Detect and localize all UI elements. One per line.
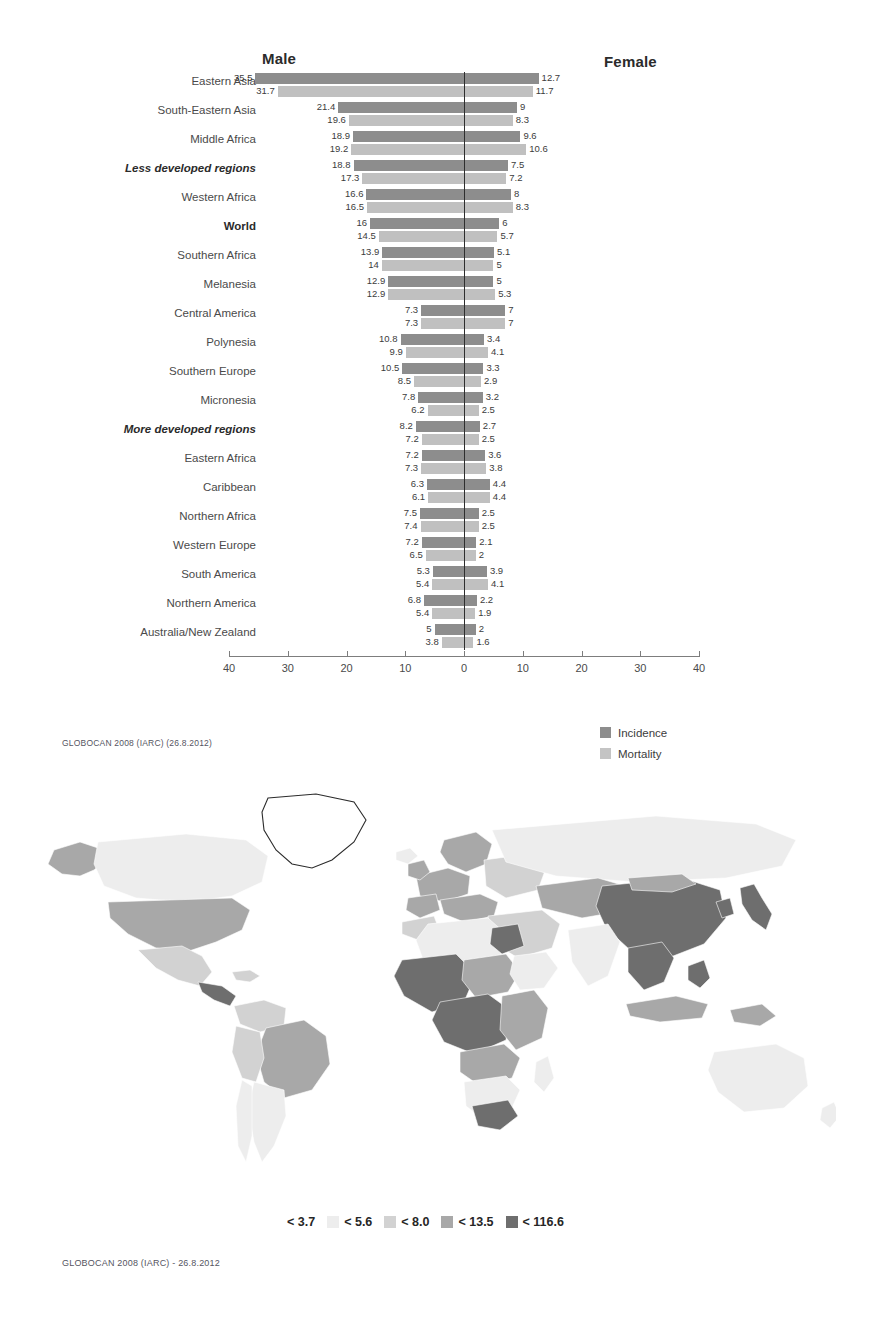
male-incidence-value: 7.5 bbox=[376, 507, 417, 519]
chart-row-group: World16614.55.7 bbox=[0, 217, 870, 246]
female-mortality-value: 2.5 bbox=[482, 404, 523, 416]
mortality-bar-track: 6.22.5 bbox=[0, 405, 870, 417]
chart-row-group: Australia/New Zealand523.81.6 bbox=[0, 623, 870, 652]
map-region-japan bbox=[740, 884, 772, 930]
male-axis-header: Male bbox=[262, 50, 296, 67]
map-region-central-america bbox=[198, 982, 236, 1006]
male-incidence-bar bbox=[422, 450, 464, 461]
mortality-bar-track: 17.37.2 bbox=[0, 173, 870, 185]
male-mortality-bar bbox=[379, 231, 464, 242]
male-mortality-value: 6.2 bbox=[384, 404, 425, 416]
map-region-argentina bbox=[248, 1082, 286, 1162]
mortality-bar-track: 8.52.9 bbox=[0, 376, 870, 388]
female-mortality-bar bbox=[464, 608, 475, 619]
x-axis-tick-label: 20 bbox=[327, 662, 367, 674]
male-incidence-value: 7.8 bbox=[374, 391, 415, 403]
female-incidence-bar bbox=[464, 305, 505, 316]
female-incidence-bar bbox=[464, 276, 493, 287]
incidence-bar-track: 12.95 bbox=[0, 276, 870, 288]
male-incidence-bar bbox=[433, 566, 464, 577]
map-region-southeast-asia bbox=[628, 942, 674, 990]
male-incidence-bar bbox=[370, 218, 464, 229]
chart-row-group: Caribbean6.34.46.14.4 bbox=[0, 478, 870, 507]
legend-item-incidence: Incidence bbox=[600, 722, 760, 743]
x-axis-tick-label: 20 bbox=[562, 662, 602, 674]
map-region-western-south-america bbox=[232, 1026, 264, 1082]
map-region-philippines bbox=[688, 960, 710, 988]
map-legend-label: < 13.5 bbox=[458, 1215, 493, 1229]
female-mortality-value: 11.7 bbox=[536, 85, 577, 97]
female-incidence-bar bbox=[464, 508, 479, 519]
chart-row-group: Eastern Africa7.23.67.33.8 bbox=[0, 449, 870, 478]
incidence-bar-track: 6.82.2 bbox=[0, 595, 870, 607]
mortality-bar-track: 9.94.1 bbox=[0, 347, 870, 359]
mortality-bar-track: 145 bbox=[0, 260, 870, 272]
male-incidence-bar bbox=[255, 73, 464, 84]
chart-row-group: Eastern Asia35.512.731.711.7 bbox=[0, 72, 870, 101]
zero-axis-line bbox=[464, 72, 465, 650]
male-mortality-bar bbox=[406, 347, 464, 358]
incidence-bar-track: 6.34.4 bbox=[0, 479, 870, 491]
map-legend-item: < 3.7 bbox=[270, 1215, 315, 1229]
incidence-bar-track: 10.53.3 bbox=[0, 363, 870, 375]
x-axis-tick-label: 40 bbox=[209, 662, 249, 674]
female-mortality-bar bbox=[464, 115, 513, 126]
map-region-canada bbox=[94, 834, 268, 902]
male-mortality-value: 5.4 bbox=[388, 607, 429, 619]
incidence-bar-track: 7.52.5 bbox=[0, 508, 870, 520]
female-mortality-value: 8.3 bbox=[516, 114, 557, 126]
map-legend: < 3.7< 5.6< 8.0< 13.5< 116.6 bbox=[270, 1215, 576, 1229]
map-legend-swatch-icon bbox=[441, 1216, 453, 1228]
female-incidence-value: 3.9 bbox=[490, 565, 531, 577]
male-mortality-bar bbox=[278, 86, 464, 97]
x-axis-tick bbox=[523, 651, 524, 657]
male-incidence-value: 8.2 bbox=[372, 420, 413, 432]
male-mortality-value: 14 bbox=[338, 259, 379, 271]
female-mortality-bar bbox=[464, 492, 490, 503]
female-mortality-bar bbox=[464, 463, 486, 474]
male-mortality-bar bbox=[432, 608, 464, 619]
incidence-bar-track: 7.22.1 bbox=[0, 537, 870, 549]
female-mortality-value: 5.3 bbox=[498, 288, 539, 300]
female-incidence-value: 8 bbox=[514, 188, 555, 200]
chart-plot-area: Eastern Asia35.512.731.711.7South-Easter… bbox=[0, 70, 870, 650]
map-legend-label: < 5.6 bbox=[344, 1215, 372, 1229]
female-mortality-value: 4.1 bbox=[491, 346, 532, 358]
male-mortality-value: 7.3 bbox=[377, 462, 418, 474]
male-mortality-value: 5.4 bbox=[388, 578, 429, 590]
map-region-caribbean bbox=[232, 970, 260, 982]
x-axis-tick bbox=[405, 651, 406, 657]
female-mortality-bar bbox=[464, 434, 479, 445]
male-incidence-value: 16 bbox=[326, 217, 367, 229]
chart-row-group: Northern America6.82.25.41.9 bbox=[0, 594, 870, 623]
chart-legend: Incidence Mortality bbox=[600, 722, 760, 764]
chart-row-group: Western Europe7.22.16.52 bbox=[0, 536, 870, 565]
male-incidence-bar bbox=[422, 537, 464, 548]
male-mortality-value: 6.5 bbox=[382, 549, 423, 561]
female-incidence-bar bbox=[464, 566, 487, 577]
mortality-bar-track: 3.81.6 bbox=[0, 637, 870, 649]
female-mortality-value: 7.2 bbox=[509, 172, 550, 184]
x-axis-tick-label: 30 bbox=[268, 662, 308, 674]
legend-label-incidence: Incidence bbox=[618, 727, 667, 739]
male-incidence-value: 35.5 bbox=[211, 72, 252, 84]
map-legend-swatch-icon bbox=[506, 1216, 518, 1228]
male-mortality-bar bbox=[422, 434, 464, 445]
chart-row-group: Micronesia7.83.26.22.5 bbox=[0, 391, 870, 420]
male-incidence-value: 16.6 bbox=[322, 188, 363, 200]
female-mortality-value: 5.7 bbox=[500, 230, 541, 242]
chart-row-group: Southern Africa13.95.1145 bbox=[0, 246, 870, 275]
x-axis-tick bbox=[582, 651, 583, 657]
female-incidence-value: 7.5 bbox=[511, 159, 552, 171]
map-legend-item: < 5.6 bbox=[327, 1215, 372, 1229]
map-region-papua-new-guinea bbox=[730, 1004, 776, 1026]
map-legend-label: < 8.0 bbox=[401, 1215, 429, 1229]
incidence-bar-track: 18.99.6 bbox=[0, 131, 870, 143]
mortality-bar-track: 19.210.6 bbox=[0, 144, 870, 156]
female-incidence-bar bbox=[464, 189, 511, 200]
female-incidence-bar bbox=[464, 131, 520, 142]
incidence-bar-track: 10.83.4 bbox=[0, 334, 870, 346]
male-mortality-bar bbox=[428, 405, 464, 416]
x-axis-tick bbox=[640, 651, 641, 657]
male-mortality-value: 17.3 bbox=[318, 172, 359, 184]
